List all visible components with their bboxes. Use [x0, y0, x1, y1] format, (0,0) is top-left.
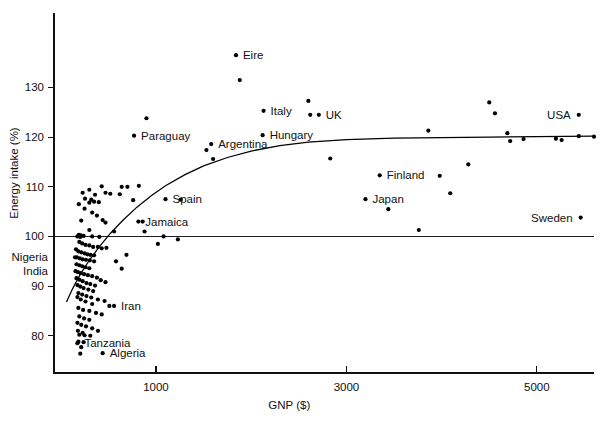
data-point [90, 274, 94, 278]
data-point [102, 299, 106, 303]
data-point [75, 341, 79, 345]
data-point [81, 191, 85, 195]
data-point [79, 345, 83, 349]
data-point [77, 314, 81, 318]
data-point [103, 280, 107, 284]
data-point [238, 78, 242, 82]
data-point [521, 137, 525, 141]
data-point [577, 113, 581, 117]
data-point [86, 273, 90, 277]
data-point [87, 228, 91, 232]
data-point [84, 294, 88, 298]
data-point [107, 304, 111, 308]
data-point [508, 139, 512, 143]
data-point [76, 329, 80, 333]
data-point [84, 258, 88, 262]
x-tick-label-5000: 5000 [524, 381, 550, 393]
data-point [505, 131, 509, 135]
data-point [156, 242, 160, 246]
data-point [93, 284, 97, 288]
data-point [131, 198, 135, 202]
data-point [86, 287, 90, 291]
data-point [90, 234, 94, 238]
data-point [87, 318, 91, 322]
data-point [90, 302, 94, 306]
data-point [87, 266, 91, 270]
data-point [142, 229, 146, 233]
data-point [317, 113, 321, 117]
y-tick-label-80: 80 [31, 330, 44, 342]
data-point [83, 197, 87, 201]
point-label-iran: Iran [121, 300, 141, 312]
data-point [438, 174, 442, 178]
data-point [75, 321, 79, 325]
data-point [87, 201, 91, 205]
data-point [104, 246, 108, 250]
y-tick-label-100: 100 [25, 230, 44, 242]
data-point [94, 311, 98, 315]
data-point [79, 218, 83, 222]
data-point [306, 99, 310, 103]
point-label-algeria: Algeria [110, 347, 146, 359]
data-point [99, 278, 103, 282]
data-point [328, 156, 332, 160]
x-axis-title: GNP ($) [268, 399, 310, 411]
data-point [363, 197, 367, 201]
data-point [487, 100, 491, 104]
data-point [100, 184, 104, 188]
data-points-group [73, 53, 596, 356]
data-point [92, 200, 96, 204]
data-point [79, 297, 83, 301]
data-point [77, 333, 81, 337]
data-point [75, 295, 79, 299]
point-label-italy: Italy [271, 105, 292, 117]
data-point [417, 228, 421, 232]
data-point [448, 191, 452, 195]
data-point [96, 329, 100, 333]
axis-titles-group: GNP ($)Energy intake (%) [8, 127, 310, 411]
data-point [125, 185, 129, 189]
data-point [82, 272, 86, 276]
data-point [89, 295, 93, 299]
data-point [91, 245, 95, 249]
data-point [493, 111, 497, 115]
y-tick-label-110: 110 [26, 181, 44, 193]
data-point [83, 243, 87, 247]
y-tick-label-120: 120 [25, 131, 44, 143]
data-point [91, 289, 95, 293]
data-point [95, 213, 99, 217]
data-point [120, 267, 124, 271]
data-point [308, 113, 312, 117]
data-point [124, 253, 128, 257]
data-point [82, 286, 86, 290]
data-point [87, 243, 91, 247]
scatter-plot-figure: 8090100110120130100030005000 ParaguayArg… [0, 0, 606, 423]
data-point [144, 116, 148, 120]
point-label-hungary: Hungary [270, 129, 314, 141]
data-point [141, 219, 145, 223]
data-point [112, 304, 116, 308]
point-label-uk: UK [326, 109, 342, 121]
data-point [261, 133, 265, 137]
y-axis-title: Energy intake (%) [8, 127, 20, 219]
data-point [82, 316, 86, 320]
point-label-argentina: Argentina [218, 138, 268, 150]
data-point [114, 259, 118, 263]
data-point [426, 129, 430, 133]
data-point [261, 109, 265, 113]
y-tick-label-90: 90 [31, 280, 44, 292]
data-point [118, 192, 122, 196]
data-point [81, 308, 85, 312]
x-tick-label-3000: 3000 [334, 381, 360, 393]
data-point [100, 246, 104, 250]
data-point [211, 157, 215, 161]
data-point [100, 312, 104, 316]
data-point [96, 297, 100, 301]
x-tick-label-1000: 1000 [143, 381, 169, 393]
data-point [95, 276, 99, 280]
data-point [176, 237, 180, 241]
data-point [87, 188, 91, 192]
data-point [137, 184, 141, 188]
data-point [120, 185, 124, 189]
data-point [204, 148, 208, 152]
